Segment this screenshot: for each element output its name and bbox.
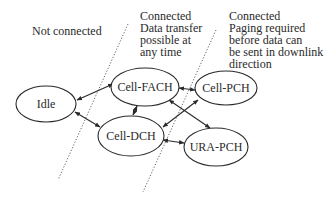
state-cell-fach-label: Cell-FACH — [117, 80, 172, 94]
rrc-state-diagram: Not connected Connected Data transfer po… — [0, 0, 325, 198]
state-ura-pch-label: URA-PCH — [190, 140, 243, 154]
region-connected-data-line: any time — [140, 45, 182, 59]
edge-cell-fach-cell-dch — [133, 106, 137, 115]
edge-cell-dch-cell-pch — [163, 100, 198, 127]
state-idle: Idle — [16, 86, 76, 122]
edge-cell-fach-ura-pch — [169, 100, 210, 128]
region-connected-data: Connected Data transfer possible at any … — [140, 9, 202, 59]
state-cell-dch-label: Cell-DCH — [106, 129, 156, 143]
region-not-connected-line: Not connected — [32, 24, 102, 38]
state-cell-dch: Cell-DCH — [98, 116, 164, 156]
region-not-connected: Not connected — [32, 24, 102, 38]
state-cell-fach: Cell-FACH — [111, 68, 179, 106]
region-connected-paging-line: direction — [229, 57, 272, 71]
state-idle-label: Idle — [37, 97, 56, 111]
state-cell-pch-label: Cell-PCH — [202, 81, 250, 95]
state-ura-pch: URA-PCH — [184, 128, 248, 166]
region-connected-paging: Connected Paging required before data ca… — [229, 9, 323, 71]
edge-cell-fach-cell-pch — [179, 88, 195, 90]
edge-cell-dch-ura-pch — [163, 140, 184, 143]
edge-idle-cell-fach — [77, 84, 113, 100]
state-cell-pch: Cell-PCH — [195, 71, 257, 105]
edge-idle-cell-dch — [75, 112, 100, 127]
